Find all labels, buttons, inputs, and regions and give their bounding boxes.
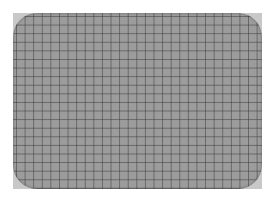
grid-paper-sheet: grid-paper <box>13 13 262 189</box>
